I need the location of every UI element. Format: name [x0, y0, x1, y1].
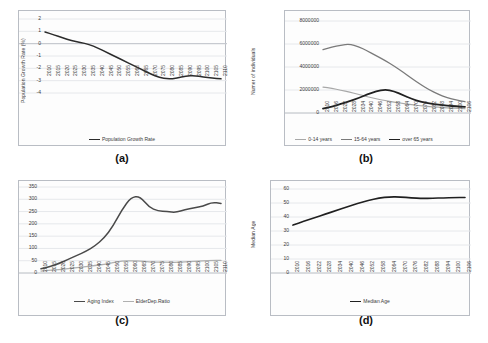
x-tick-label: 2095: [196, 65, 202, 76]
x-tick-label: 2028: [351, 101, 357, 112]
y-tick-label: 50: [244, 199, 289, 205]
y-tick-label: 20: [244, 241, 289, 247]
legend-item: Median Age: [350, 298, 389, 304]
x-tick-label: 2020: [64, 65, 70, 76]
x-tick-label: 2076: [412, 261, 418, 272]
x-tick-label: 2105: [213, 261, 219, 272]
x-tick-label: 2070: [413, 101, 419, 112]
x-tick-label: 2088: [434, 261, 440, 272]
x-tick-label: 2052: [386, 101, 392, 112]
y-tick-label: 2: [0, 15, 41, 21]
y-tick-label: 0: [0, 40, 41, 46]
legend-item: Aging Index: [74, 298, 113, 304]
x-tick-label: 2020: [60, 261, 66, 272]
y-tick-label: 30: [244, 227, 289, 233]
x-tick-label: 2100: [204, 261, 210, 272]
x-tick-label: 2060: [134, 65, 140, 76]
y-tick-label: 0: [244, 269, 289, 275]
series-line: [41, 197, 221, 269]
x-tick-label: 2085: [177, 261, 183, 272]
x-tick-label: 2034: [360, 101, 366, 112]
y-tick-label: 2000000: [244, 86, 319, 92]
y-tick-label: 0: [0, 269, 37, 275]
x-tick-label: 2010: [42, 261, 48, 272]
x-tick-label: 2070: [152, 65, 158, 76]
legend-item: 15-64 years: [341, 136, 380, 142]
x-tick-label: 2090: [187, 65, 193, 76]
x-tick-label: 2094: [445, 261, 451, 272]
x-tick-label: 2045: [105, 261, 111, 272]
x-tick-label: 2095: [195, 261, 201, 272]
y-tick-label: -1: [0, 52, 41, 58]
x-tick-label: 2050: [116, 65, 122, 76]
legend-swatch: [295, 139, 306, 140]
x-tick-label: 2046: [359, 261, 365, 272]
x-tick-label: 2010: [46, 65, 52, 76]
chart-canvas-a: [19, 11, 227, 147]
legend-swatch: [350, 301, 361, 302]
x-tick-label: 2010: [294, 261, 300, 272]
x-tick-label: 2065: [141, 261, 147, 272]
x-tick-label: 2110: [222, 65, 228, 76]
x-tick-label: 2016: [305, 261, 311, 272]
x-tick-label: 2082: [423, 261, 429, 272]
y-tick-label: 60: [244, 185, 289, 191]
x-tick-label: 2028: [326, 261, 332, 272]
x-tick-label: 2105: [213, 65, 219, 76]
panel-label-b: (b): [244, 152, 488, 164]
x-tick-label: 2040: [348, 261, 354, 272]
x-tick-label: 2110: [222, 261, 228, 272]
x-tick-label: 2094: [448, 101, 454, 112]
y-tick-label: -2: [0, 64, 41, 70]
panel-label-a: (a): [0, 152, 244, 164]
x-tick-label: 2090: [186, 261, 192, 272]
x-tick-label: 2076: [422, 101, 428, 112]
legend-c: Aging IndexElderDep.Ratio: [18, 296, 226, 306]
panel-b: Numer of individuals 8000000600000040000…: [244, 0, 488, 172]
y-tick-label: 1: [0, 27, 41, 33]
x-tick-label: 2052: [369, 261, 375, 272]
legend-d: Median Age: [270, 296, 470, 306]
legend-label: 15-64 years: [354, 136, 380, 142]
y-tick-label: 200: [0, 220, 37, 226]
x-tick-label: 2034: [337, 261, 343, 272]
x-tick-label: 2085: [178, 65, 184, 76]
legend-label: Aging Index: [87, 298, 113, 304]
panel-c: 350300250200150100500 201020152020202520…: [0, 172, 244, 343]
x-tick-label: 2065: [143, 65, 149, 76]
x-tick-label: 2070: [402, 261, 408, 272]
legend-swatch: [123, 301, 134, 302]
series-line: [323, 44, 465, 101]
panel-label-d: (d): [244, 314, 488, 326]
x-tick-label: 2075: [160, 65, 166, 76]
x-tick-label: 2025: [69, 261, 75, 272]
panel-label-c: (c): [0, 314, 244, 326]
legend-swatch: [341, 139, 352, 140]
x-tick-label: 2030: [78, 261, 84, 272]
legend-label: Median Age: [363, 298, 389, 304]
legend-label: Population Growth Rate: [102, 136, 155, 142]
x-tick-label: 2080: [168, 261, 174, 272]
y-tick-label: 350: [0, 183, 37, 189]
x-tick-label: 2035: [90, 65, 96, 76]
y-tick-label: 8000000: [244, 17, 319, 23]
y-tick-label: -3: [0, 77, 41, 83]
legend-item: ElderDep.Ratio: [123, 298, 170, 304]
y-tick-label: 100: [0, 244, 37, 250]
x-tick-label: 2035: [87, 261, 93, 272]
legend-label: over 65 years: [402, 136, 432, 142]
legend-label: 0-14 years: [308, 136, 332, 142]
x-tick-label: 2100: [204, 65, 210, 76]
x-tick-label: 2080: [169, 65, 175, 76]
y-tick-label: 250: [0, 208, 37, 214]
y-tick-label: 4000000: [244, 63, 319, 69]
x-tick-label: 2045: [108, 65, 114, 76]
chart-canvas-b: [285, 11, 471, 147]
y-tick-label: 150: [0, 232, 37, 238]
legend-label: ElderDep.Ratio: [136, 298, 170, 304]
x-tick-label: 2088: [439, 101, 445, 112]
x-tick-label: 2075: [159, 261, 165, 272]
legend-swatch: [389, 139, 400, 140]
y-tick-label: 300: [0, 195, 37, 201]
plot-area-a: [18, 10, 226, 146]
